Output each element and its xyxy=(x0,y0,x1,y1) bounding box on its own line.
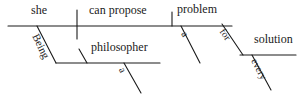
word-direct-object: problem xyxy=(177,3,217,15)
predicate-noun-divider xyxy=(79,49,87,63)
word-predicate-noun: philosopher xyxy=(91,41,148,53)
word-subject: she xyxy=(31,4,47,16)
word-prep-object: solution xyxy=(254,33,293,45)
sentence-diagram: she can propose problem philosopher solu… xyxy=(0,0,298,99)
word-verb: can propose xyxy=(89,4,147,16)
